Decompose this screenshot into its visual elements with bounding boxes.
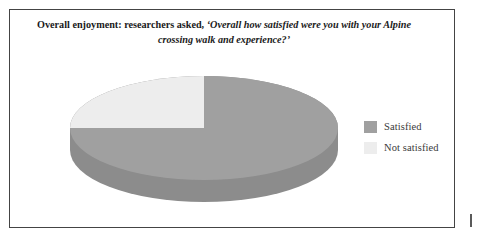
- legend-label-satisfied: Satisfied: [384, 121, 422, 132]
- pie-slice-not-satisfied: [70, 76, 204, 128]
- legend-item-not-satisfied[interactable]: Not satisfied: [364, 137, 459, 158]
- chart-title: Overall enjoyment: researchers asked, ‘O…: [22, 18, 426, 47]
- legend-swatch-satisfied: [364, 121, 377, 133]
- legend-label-not-satisfied: Not satisfied: [384, 142, 439, 153]
- chart-title-lead: Overall enjoyment: researchers asked,: [37, 19, 207, 30]
- page-edge-mark: [470, 214, 472, 227]
- figure-frame: Overall enjoyment: researchers asked, ‘O…: [9, 9, 455, 228]
- legend-item-satisfied[interactable]: Satisfied: [364, 116, 459, 137]
- legend: Satisfied Not satisfied: [364, 116, 459, 158]
- pie-chart-svg: [61, 66, 351, 226]
- legend-swatch-not-satisfied: [364, 142, 377, 154]
- pie-chart: [61, 66, 351, 226]
